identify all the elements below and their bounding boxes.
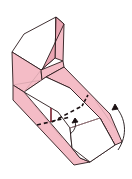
arrowhead-icon	[112, 104, 118, 110]
paper-model	[12, 17, 122, 165]
origami-diagram	[0, 0, 132, 179]
